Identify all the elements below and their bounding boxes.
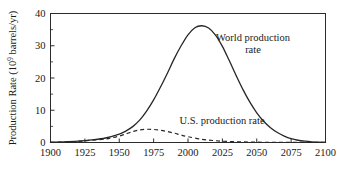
annotation-us-line-1: U.S. production rate xyxy=(179,115,264,126)
x-tick-label: 2025 xyxy=(212,147,233,158)
x-tick-label: 1900 xyxy=(40,147,61,158)
chart-canvas: 010203040 190019251950197520002025205020… xyxy=(0,0,353,172)
production-rate-chart: 010203040 190019251950197520002025205020… xyxy=(0,0,353,172)
y-axis-title-tail: barrels/yr) xyxy=(7,10,19,57)
y-axis-title-main: Production Rate (10 xyxy=(7,61,19,146)
annotation-world-production: World production rate xyxy=(216,32,291,55)
y-tick-label: 30 xyxy=(35,40,46,51)
x-tick-label: 1975 xyxy=(143,147,164,158)
x-tick-label: 2000 xyxy=(178,147,199,158)
x-tick-label: 2075 xyxy=(281,147,302,158)
y-axis-title: Production Rate (109 barrels/yr) xyxy=(7,10,19,145)
y-axis-major-ticks xyxy=(51,14,55,143)
x-tick-label: 2050 xyxy=(246,147,267,158)
y-tick-label: 10 xyxy=(35,105,46,116)
x-tick-label: 1925 xyxy=(74,147,95,158)
y-tick-label: 40 xyxy=(35,8,46,19)
annotation-world-line-1: World production xyxy=(216,32,291,43)
x-tick-label: 2100 xyxy=(315,147,336,158)
x-axis-tick-labels: 190019251950197520002025205020752100 xyxy=(40,147,336,158)
x-tick-label: 1950 xyxy=(109,147,130,158)
annotation-us-production: U.S. production rate xyxy=(179,115,264,126)
annotation-world-line-2: rate xyxy=(245,44,261,55)
y-axis-tick-labels: 010203040 xyxy=(35,8,46,148)
y-tick-label: 20 xyxy=(35,73,46,84)
